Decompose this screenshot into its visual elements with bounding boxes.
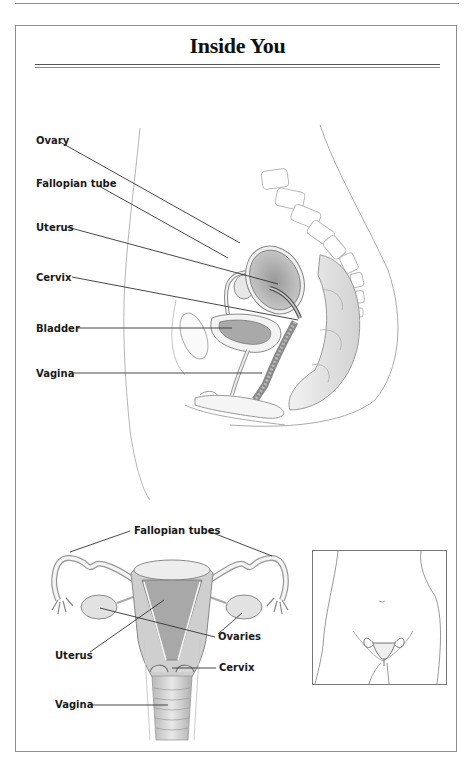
label-ovaries: Ovaries [218, 631, 261, 642]
label-front-cervix: Cervix [219, 662, 254, 673]
torso-inset [312, 550, 447, 685]
torso-outline-icon [313, 551, 446, 684]
label-front-uterus: Uterus [55, 650, 93, 661]
label-front-vagina: Vagina [55, 699, 93, 710]
label-fallopian-tubes: Fallopian tubes [134, 525, 220, 536]
